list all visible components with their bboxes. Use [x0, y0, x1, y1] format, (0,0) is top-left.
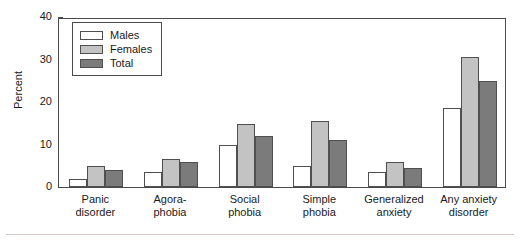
- bar-total-group-4: [329, 140, 347, 187]
- legend-label: Females: [110, 43, 152, 55]
- bar-total-group-5: [404, 168, 422, 187]
- y-tick-label: 0: [14, 180, 52, 192]
- bar-females-group-6: [461, 57, 479, 187]
- y-tick-label: 20: [14, 95, 52, 107]
- bar-males-group-4: [293, 166, 311, 187]
- legend-label: Males: [110, 29, 139, 41]
- x-group-label: Social phobia: [207, 193, 282, 219]
- bar-males-group-2: [144, 172, 162, 187]
- bar-females-group-5: [386, 162, 404, 188]
- x-group-label: Simple phobia: [282, 193, 357, 219]
- bar-total-group-3: [255, 136, 273, 187]
- legend-item-females: Females: [80, 42, 152, 56]
- y-tick-label: 10: [14, 138, 52, 150]
- bar-females-group-1: [87, 166, 105, 187]
- x-group-label: Any anxiety disorder: [431, 193, 506, 219]
- legend-item-total: Total: [80, 56, 152, 70]
- bar-males-group-6: [443, 108, 461, 187]
- x-group-label: Generalized anxiety: [357, 193, 432, 219]
- y-tick-label: 30: [14, 53, 52, 65]
- x-group-label: Panic disorder: [58, 193, 133, 219]
- bar-females-group-2: [162, 159, 180, 187]
- bar-females-group-3: [237, 124, 255, 187]
- bar-females-group-4: [311, 121, 329, 187]
- legend-swatch-females: [80, 45, 103, 54]
- bar-chart-figure: Percent 010203040 Panic disorderAgora- p…: [0, 0, 520, 245]
- bar-males-group-5: [368, 172, 386, 187]
- bar-total-group-6: [479, 81, 497, 187]
- bar-males-group-1: [69, 179, 87, 188]
- legend-swatch-total: [80, 59, 103, 68]
- legend: MalesFemalesTotal: [72, 22, 162, 76]
- bar-males-group-3: [219, 145, 237, 188]
- y-tick-label: 40: [14, 10, 52, 22]
- bar-total-group-2: [180, 162, 198, 187]
- bar-total-group-1: [105, 170, 123, 187]
- legend-item-males: Males: [80, 28, 152, 42]
- x-group-label: Agora- phobia: [133, 193, 208, 219]
- legend-label: Total: [110, 57, 133, 69]
- page-divider-rule: [6, 234, 514, 235]
- legend-swatch-males: [80, 31, 103, 40]
